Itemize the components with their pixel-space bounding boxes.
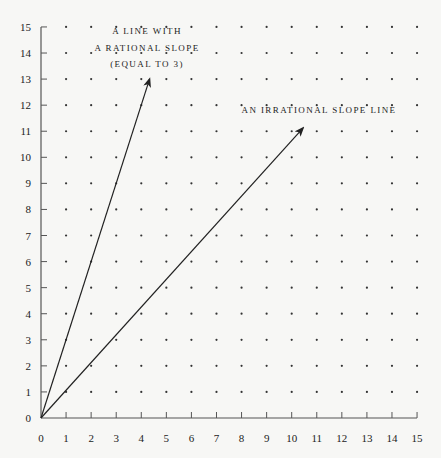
grid-dot xyxy=(416,156,418,158)
grid-dot xyxy=(266,339,268,341)
grid-dot xyxy=(416,182,418,184)
grid-dot xyxy=(266,391,268,393)
grid-dot xyxy=(215,313,217,315)
grid-dot xyxy=(291,260,293,262)
grid-dot xyxy=(291,26,293,28)
grid-dot xyxy=(291,391,293,393)
grid-dot xyxy=(140,208,142,210)
grid-dot xyxy=(416,52,418,54)
grid-dot xyxy=(266,208,268,210)
grid-dot xyxy=(165,260,167,262)
grid-dot xyxy=(291,339,293,341)
grid-dot xyxy=(65,234,67,236)
grid-dot xyxy=(341,391,343,393)
grid-dot xyxy=(416,208,418,210)
grid-dot xyxy=(65,260,67,262)
grid-dot xyxy=(215,156,217,158)
grid-dot xyxy=(316,260,318,262)
grid-dot xyxy=(240,260,242,262)
grid-dot xyxy=(165,104,167,106)
x-tick-label: 12 xyxy=(336,432,347,444)
y-tick-label: 14 xyxy=(20,47,32,59)
grid-dot xyxy=(341,182,343,184)
grid-dot xyxy=(115,391,117,393)
grid-dot xyxy=(416,391,418,393)
grid-dot xyxy=(266,182,268,184)
grid-dot xyxy=(341,156,343,158)
grid-dot xyxy=(215,182,217,184)
grid-dot xyxy=(65,313,67,315)
grid-dot xyxy=(90,26,92,28)
grid-dot xyxy=(291,78,293,80)
grid-dot xyxy=(316,78,318,80)
grid-dot xyxy=(140,156,142,158)
rational-label-line-2: A RATIONAL SLOPE xyxy=(94,43,199,53)
grid-dot xyxy=(316,208,318,210)
grid-dot xyxy=(416,104,418,106)
x-tick-label: 5 xyxy=(164,432,170,444)
annotations: A LINE WITH A RATIONAL SLOPE (EQUAL TO 3… xyxy=(94,26,396,115)
grid-dot xyxy=(391,234,393,236)
grid-dot xyxy=(165,391,167,393)
grid-dot xyxy=(366,156,368,158)
rational-label-line-1: A LINE WITH xyxy=(112,26,182,36)
x-tick-label: 8 xyxy=(239,432,245,444)
grid-dot xyxy=(391,208,393,210)
grid-dot xyxy=(90,104,92,106)
grid-dot xyxy=(90,78,92,80)
grid-dot xyxy=(215,78,217,80)
grid-dot xyxy=(65,26,67,28)
grid-dot xyxy=(316,182,318,184)
grid-dot xyxy=(341,313,343,315)
grid-dot xyxy=(215,208,217,210)
grid-dot xyxy=(240,287,242,289)
x-tick-label: 2 xyxy=(88,432,94,444)
y-tick-label: 1 xyxy=(26,386,32,398)
grid-dot xyxy=(341,339,343,341)
grid-dot xyxy=(215,26,217,28)
y-tick-label: 2 xyxy=(26,360,32,372)
x-tick-label: 7 xyxy=(214,432,220,444)
grid-dot xyxy=(366,234,368,236)
axes: 0123456789101112131415012345678910111213… xyxy=(20,21,423,444)
grid-dot xyxy=(215,130,217,132)
grid-dot xyxy=(90,182,92,184)
grid-dot xyxy=(240,234,242,236)
grid-dot xyxy=(316,156,318,158)
grid-dot xyxy=(291,182,293,184)
grid-dot xyxy=(140,339,142,341)
grid-dot xyxy=(266,26,268,28)
grid-dot xyxy=(190,78,192,80)
grid-dot xyxy=(240,182,242,184)
y-tick-label: 13 xyxy=(20,73,32,85)
grid-dot xyxy=(90,208,92,210)
y-tick-label: 5 xyxy=(26,282,32,294)
grid-dot xyxy=(90,156,92,158)
grid-dot xyxy=(90,52,92,54)
grid-dot xyxy=(341,130,343,132)
grid-dot xyxy=(190,339,192,341)
slope-diagram: 0123456789101112131415012345678910111213… xyxy=(0,0,441,458)
grid-dot xyxy=(266,78,268,80)
grid-dot xyxy=(366,78,368,80)
x-tick-label: 6 xyxy=(189,432,195,444)
grid-dot xyxy=(215,52,217,54)
grid-dot xyxy=(391,391,393,393)
grid-dot xyxy=(266,287,268,289)
grid-dot xyxy=(416,339,418,341)
grid-dot xyxy=(115,260,117,262)
grid-dot xyxy=(165,156,167,158)
grid-dot xyxy=(366,208,368,210)
grid-dot xyxy=(291,130,293,132)
grid-dot xyxy=(341,52,343,54)
grid-dot xyxy=(165,339,167,341)
grid-dot xyxy=(140,234,142,236)
grid-dot xyxy=(266,365,268,367)
y-tick-label: 15 xyxy=(20,21,32,33)
grid-dot xyxy=(266,234,268,236)
grid-dot xyxy=(391,130,393,132)
grid-dot xyxy=(165,234,167,236)
grid-dot xyxy=(140,391,142,393)
grid-dot xyxy=(240,339,242,341)
irrational-label: AN IRRATIONAL SLOPE LINE xyxy=(241,105,396,115)
